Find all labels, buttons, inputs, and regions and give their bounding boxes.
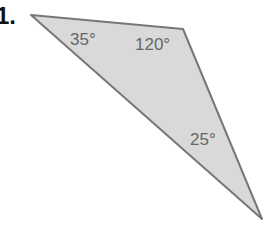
angle-label-bottom: 25°	[190, 130, 216, 149]
triangle-diagram: 35° 120° 25°	[0, 0, 263, 225]
angle-label-top-left: 35°	[70, 30, 96, 49]
angle-label-top-right: 120°	[135, 35, 170, 54]
